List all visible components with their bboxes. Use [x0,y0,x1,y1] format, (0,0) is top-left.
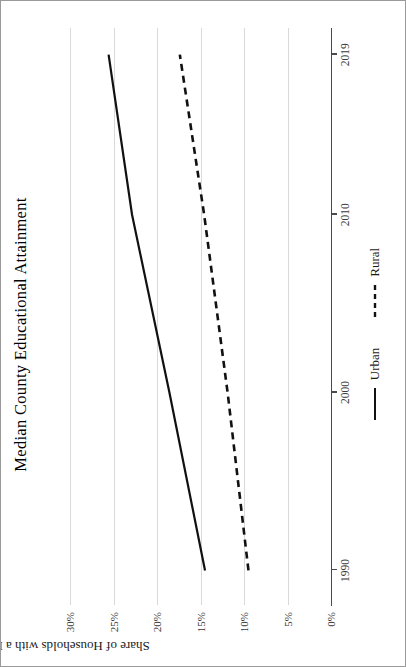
y-tick-label: 15% [195,612,207,632]
plot-area [53,28,331,606]
x-tick-label: 1990 [339,559,351,582]
rotated-figure-wrapper: Median County Educational Attainment 199… [1,1,406,667]
legend-item-urban[interactable]: Urban [367,348,383,422]
x-axis-line [331,28,332,606]
x-tick-label: 2000 [339,381,351,404]
y-tick-label: 10% [238,612,250,632]
x-tick [331,213,337,214]
legend-label: Rural [367,248,383,277]
legend-swatch-solid-icon [370,387,380,421]
y-tick-label: 30% [64,612,76,632]
x-tick [331,391,337,392]
y-tick-label: 25% [108,612,120,632]
x-tick-label: 2019 [339,43,351,66]
x-tick [331,569,337,570]
x-tick-label: 2010 [339,203,351,226]
legend-label: Urban [367,348,383,381]
chart-title: Median County Educational Attainment [11,1,31,667]
legend-swatch-dashed-icon [370,284,380,318]
y-axis-title: Share of Households with a BA or Above [0,638,192,654]
chart-legend: UrbanRural [367,1,383,667]
y-tick-label: 5% [282,612,294,627]
y-tick-label: 20% [151,612,163,632]
y-tick-label: 0% [325,612,337,627]
series-line-urban [109,55,205,571]
x-tick [331,53,337,54]
y-axis-spine [53,605,331,606]
series-layer [53,28,331,606]
chart-figure: Median County Educational Attainment 199… [1,1,406,667]
legend-item-rural[interactable]: Rural [367,248,383,318]
scanned-page: Median County Educational Attainment 199… [0,0,406,667]
